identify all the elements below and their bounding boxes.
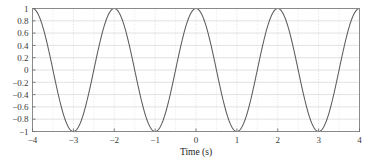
x-axis-title: Time (s) [180,147,212,158]
y-tick-label: 0.2 [17,53,28,63]
x-tick-label: −3 [69,135,79,145]
y-tick-label: −0.2 [12,78,28,88]
x-tick-label: 2 [276,135,281,145]
y-tick-label: 0 [24,65,29,75]
y-tick-label: −0.4 [12,90,29,100]
y-tick-label: 0.4 [17,41,29,51]
y-tick-label: −0.6 [12,102,29,112]
x-tick-label: 0 [194,135,199,145]
y-tick-label: 1 [24,4,29,14]
cosine-wave-chart: 10.80.60.40.20−0.2−0.4−0.6−0.8−1−4−3−2−1… [0,0,368,160]
y-tick-label: −0.8 [12,114,29,124]
x-tick-label: −4 [28,135,38,145]
x-tick-label: 4 [357,135,362,145]
x-tick-label: 3 [316,135,321,145]
x-tick-label: −2 [109,135,119,145]
y-tick-label: 0.8 [17,16,29,26]
figure-container: 10.80.60.40.20−0.2−0.4−0.6−0.8−1−4−3−2−1… [0,0,368,160]
x-tick-label: 1 [235,135,240,145]
y-tick-label: 0.6 [17,28,29,38]
x-tick-label: −1 [150,135,160,145]
